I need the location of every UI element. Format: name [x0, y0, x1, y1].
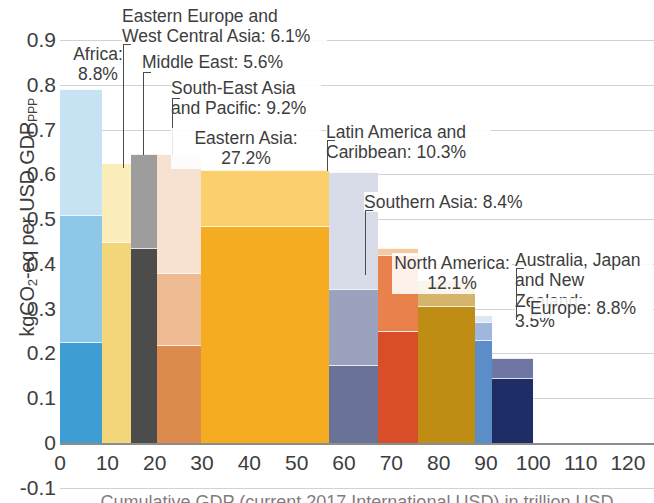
leader-cap: [516, 268, 524, 269]
leader-line: [365, 210, 366, 275]
bar-segment: [329, 172, 378, 288]
bar-segment: [157, 345, 201, 444]
y-tick-label: 0: [12, 432, 56, 453]
x-tick-label: 110: [561, 452, 601, 473]
leader-line: [516, 268, 517, 320]
leader-cap: [172, 98, 180, 99]
x-tick-label: 10: [87, 452, 127, 473]
annotation-australia-japan-nz: Australia, Japan and New Zealand: 3.5%: [515, 250, 653, 331]
bar-eastern-europe-and-west-central-asia[interactable]: [102, 163, 131, 443]
annotation-latin-america: Latin America and Caribbean: 10.3%: [326, 122, 491, 163]
bar-segment: [475, 322, 492, 340]
y-tick-label: 0.3: [12, 298, 56, 319]
bar-europe[interactable]: [492, 358, 534, 443]
y-tick-label: 0.9: [12, 29, 56, 50]
y-tick-label: 0.8: [12, 74, 56, 95]
leader-line: [123, 44, 124, 168]
y-axis-ticks: 0.90.80.70.60.50.40.30.20.10-0.1: [0, 0, 56, 503]
bar-australia-japan-and-new-zealand[interactable]: [475, 315, 492, 443]
x-tick-label: 50: [277, 452, 317, 473]
gridline: [60, 488, 654, 489]
bar-segment: [492, 358, 534, 378]
bar-segment: [201, 170, 330, 226]
bar-segment: [60, 342, 102, 443]
x-tick-label: 100: [513, 452, 553, 473]
bar-latin-america-and-caribbean[interactable]: [329, 172, 378, 443]
y-tick-label: 0.2: [12, 342, 56, 363]
bar-africa[interactable]: [60, 89, 102, 443]
bar-segment: [102, 242, 131, 444]
bar-segment: [378, 331, 418, 443]
y-tick-label: 0.7: [12, 119, 56, 140]
bar-segment: [201, 226, 330, 443]
bar-segment: [418, 306, 475, 443]
chart-canvas: kgCO2-eq per USD GDPPPP 0.90.80.70.60.50…: [0, 0, 654, 503]
x-tick-label: 20: [135, 452, 175, 473]
x-axis-title: Cumulative GDP (current 2017 Internation…: [60, 492, 654, 503]
bar-south-east-asia-and-pacific[interactable]: [157, 154, 201, 443]
leader-cap: [365, 210, 373, 211]
leader-cap: [327, 140, 335, 141]
annotation-south-east-asia: South-East Asia and Pacific: 9.2%: [171, 78, 321, 119]
x-tick-label: 90: [466, 452, 506, 473]
y-tick-label: -0.1: [12, 477, 56, 498]
bar-segment: [329, 289, 378, 365]
annotation-eastern-europe: Eastern Europe and West Central Asia: 6.…: [122, 6, 327, 47]
bar-segment: [492, 378, 534, 443]
x-tick-label: 70: [371, 452, 411, 473]
bar-segment: [131, 154, 158, 248]
bar-eastern-asia[interactable]: [201, 170, 330, 443]
leader-line: [143, 72, 144, 155]
y-tick-label: 0.5: [12, 208, 56, 229]
zero-baseline: [60, 443, 654, 445]
bar-segment: [102, 163, 131, 241]
bar-north-america[interactable]: [418, 280, 475, 443]
bar-segment: [157, 154, 201, 273]
annotation-middle-east: Middle East: 5.6%: [142, 52, 312, 72]
x-tick-label: 30: [182, 452, 222, 473]
x-tick-label: 120: [608, 452, 648, 473]
bar-segment: [157, 273, 201, 345]
bar-segment: [60, 89, 102, 214]
y-tick-label: 0.4: [12, 253, 56, 274]
bar-segment: [329, 365, 378, 443]
bar-segment: [475, 315, 492, 322]
plot-area: [60, 40, 654, 443]
annotation-eastern-asia: Eastern Asia: 27.2%: [171, 128, 321, 169]
leader-cap: [143, 72, 151, 73]
annotation-europe: Europe: 8.8%: [530, 298, 650, 318]
leader-line: [327, 140, 328, 171]
x-tick-label: 60: [324, 452, 364, 473]
y-tick-label: 0.1: [12, 387, 56, 408]
leader-cap: [123, 44, 131, 45]
bar-middle-east[interactable]: [131, 154, 158, 443]
y-tick-label: 0.6: [12, 163, 56, 184]
annotation-north-america: North America: 12.1%: [392, 253, 512, 294]
x-tick-label: 80: [419, 452, 459, 473]
annotation-southern-asia: Southern Asia: 8.4%: [364, 192, 549, 212]
x-tick-label: 0: [40, 452, 80, 473]
bar-segment: [475, 340, 492, 443]
x-tick-label: 40: [229, 452, 269, 473]
bar-segment: [131, 248, 158, 443]
bar-segment: [60, 215, 102, 343]
